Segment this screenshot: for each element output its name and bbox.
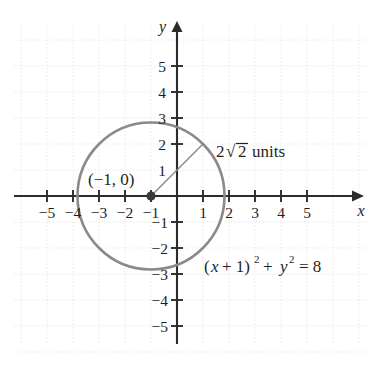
equation-open-paren: ( xyxy=(204,257,210,276)
y-tick-label: 3 xyxy=(158,110,166,127)
y-tick-label: 4 xyxy=(158,84,166,101)
y-tick-label: −1 xyxy=(152,214,169,231)
y-tick-label: 2 xyxy=(158,136,166,153)
radicand: 2 xyxy=(238,142,247,161)
grid-vertical xyxy=(21,26,359,344)
coordinate-plane-svg: −5 −4 −3 −2 −1 1 2 3 4 5 5 4 3 2 1 −1 −2… xyxy=(0,0,379,365)
y-tick-label: −5 xyxy=(152,318,169,335)
x-tick-label: 4 xyxy=(277,204,285,221)
x-axis-arrow xyxy=(352,191,364,202)
y-tick-label: −3 xyxy=(152,266,169,283)
equation-variable-x: x xyxy=(210,257,219,276)
x-tick-label: 2 xyxy=(225,204,233,221)
x-tick-label: 5 xyxy=(303,204,311,221)
y-axis-label: y xyxy=(157,18,167,36)
x-tick-labels: −5 −4 −3 −2 −1 1 2 3 4 5 xyxy=(39,204,311,221)
radius-coefficient: 2 xyxy=(216,142,225,161)
y-axis xyxy=(172,21,183,344)
y-tick-label: 5 xyxy=(158,58,166,75)
x-axis xyxy=(14,191,364,202)
equation-equals-eight: = 8 xyxy=(299,257,321,276)
x-tick-label: −4 xyxy=(65,204,82,221)
equation-variable-y: y xyxy=(278,257,288,276)
equation-label: ( x + 1) 2 + y 2 = 8 xyxy=(204,253,321,276)
equation-exponent-second: 2 xyxy=(289,253,295,265)
x-tick-label: −3 xyxy=(91,204,108,221)
center-point-label: (−1, 0) xyxy=(88,170,134,189)
y-tick-label: 1 xyxy=(158,162,166,179)
radical-sign-icon: √ xyxy=(226,142,236,161)
equation-exponent-first: 2 xyxy=(254,253,260,265)
radius-length-label: 2 √ 2 units xyxy=(216,142,285,161)
y-axis-arrow xyxy=(172,21,183,32)
x-tick-label: 3 xyxy=(251,204,259,221)
x-axis-label: x xyxy=(356,202,364,219)
x-tick-label: 1 xyxy=(199,204,207,221)
x-tick-label: −2 xyxy=(117,204,134,221)
circle-graph-figure: −5 −4 −3 −2 −1 1 2 3 4 5 5 4 3 2 1 −1 −2… xyxy=(0,0,379,365)
equation-plus-one: + 1) xyxy=(222,257,250,276)
center-point-dot xyxy=(146,191,155,200)
y-tick-label: −4 xyxy=(152,292,169,309)
equation-plus-sign: + xyxy=(263,257,273,276)
y-tick-label: −2 xyxy=(152,240,169,257)
x-tick-label: −5 xyxy=(39,204,56,221)
radius-units: units xyxy=(252,142,285,161)
